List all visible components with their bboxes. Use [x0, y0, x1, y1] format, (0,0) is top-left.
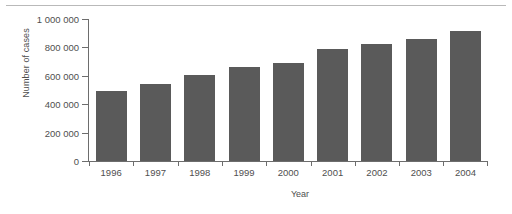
x-tick-1998 [178, 161, 179, 166]
x-tick-2002 [355, 161, 356, 166]
bar-chart-figure: Number of cases 0 200 000 400 000 600 00… [0, 0, 512, 214]
plot-area: 0 200 000 400 000 600 000 800 000 1 000 … [0, 0, 512, 214]
y-tick-label-5: 1 000 000 [3, 14, 79, 25]
x-tick-2001 [311, 161, 312, 166]
bar-1998 [184, 75, 215, 161]
y-tick-2 [82, 104, 88, 105]
x-tick-2004 [443, 161, 444, 166]
bar-1996 [96, 91, 127, 161]
y-tick-label-wrap-1: 200 000 [0, 128, 79, 139]
y-axis-line [88, 19, 89, 162]
y-tick-label-0: 0 [3, 156, 79, 167]
x-tick-label-2000: 2000 [266, 167, 310, 178]
x-tick-2000 [266, 161, 267, 166]
x-tick-label-2001: 2001 [311, 167, 355, 178]
x-tick-1996 [89, 161, 90, 166]
y-tick-1 [82, 133, 88, 134]
y-tick-label-3: 600 000 [3, 71, 79, 82]
bar-1997 [140, 84, 171, 161]
y-tick-3 [82, 76, 88, 77]
y-tick-label-1: 200 000 [3, 128, 79, 139]
y-tick-label-2: 400 000 [3, 99, 79, 110]
x-tick-label-1997: 1997 [133, 167, 177, 178]
y-tick-label-wrap-4: 800 000 [0, 42, 79, 53]
y-tick-0 [82, 161, 88, 162]
x-tick-label-1996: 1996 [89, 167, 133, 178]
x-axis-end-tick [487, 161, 488, 166]
x-tick-label-1998: 1998 [178, 167, 222, 178]
y-tick-5 [82, 19, 88, 20]
x-tick-label-2003: 2003 [399, 167, 443, 178]
bar-2002 [361, 44, 392, 161]
x-tick-1997 [133, 161, 134, 166]
y-tick-label-wrap-3: 600 000 [0, 71, 79, 82]
x-tick-label-2004: 2004 [444, 167, 488, 178]
x-tick-2003 [399, 161, 400, 166]
x-tick-label-1999: 1999 [222, 167, 266, 178]
bar-2001 [317, 49, 348, 161]
x-tick-label-2002: 2002 [355, 167, 399, 178]
bar-2003 [406, 39, 437, 161]
bar-2004 [450, 31, 481, 161]
x-tick-1999 [222, 161, 223, 166]
bar-1999 [229, 67, 260, 161]
y-tick-4 [82, 47, 88, 48]
x-axis-title: Year [270, 189, 330, 199]
x-axis-line [88, 161, 488, 162]
y-tick-label-4: 800 000 [3, 42, 79, 53]
bar-2000 [273, 63, 304, 161]
y-tick-label-wrap-0: 0 [0, 156, 79, 167]
y-tick-label-wrap-5: 1 000 000 [0, 14, 79, 25]
y-tick-label-wrap-2: 400 000 [0, 99, 79, 110]
